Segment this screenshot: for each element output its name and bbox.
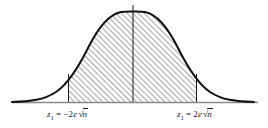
left-label-sub: 1 — [51, 115, 54, 121]
left-label-radical-group: √n — [77, 110, 88, 119]
right-label-eq: = — [186, 109, 191, 119]
left-label-coefficient: −2 — [63, 109, 73, 119]
right-label-radical-group: √n — [202, 110, 213, 119]
right-bound-label: z1=2e√n — [177, 110, 213, 121]
right-label-radicand: n — [207, 108, 213, 119]
normal-distribution-figure — [0, 0, 268, 128]
left-bound-label: z1=−2e√n — [47, 110, 88, 121]
left-label-radicand: n — [83, 108, 89, 119]
left-label-eq: = — [56, 109, 61, 119]
right-label-sub: 1 — [181, 115, 184, 121]
